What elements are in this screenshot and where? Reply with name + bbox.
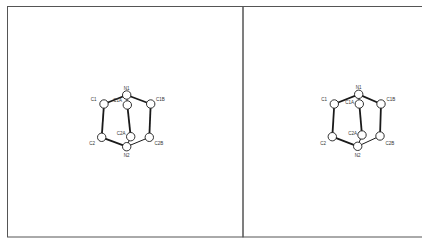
atom-label-c2b: C2B (386, 141, 395, 146)
atom-n1 (355, 90, 363, 98)
atom-label-n1: N1 (124, 86, 130, 91)
atom-label-n2: N2 (124, 153, 130, 158)
atom-c1 (330, 100, 338, 108)
atom-c1b (147, 100, 155, 108)
atom-label-c2a: C2A (117, 131, 126, 136)
panel-frame (8, 7, 422, 238)
bond-c1a-c2a (127, 105, 130, 137)
atom-c1b (377, 100, 385, 108)
atom-c2b (376, 132, 384, 140)
atom-c1a (355, 100, 363, 108)
atom-label-c1: C1 (321, 97, 327, 102)
atom-label-c1: C1 (91, 97, 97, 102)
atom-c2a (358, 131, 366, 139)
atom-label-n2: N2 (355, 153, 361, 158)
bond-c1-c2 (102, 104, 104, 137)
atom-c2a (127, 133, 135, 141)
bond-c1a-c2a (359, 104, 362, 135)
atom-label-c2: C2 (320, 141, 326, 146)
atom-n2 (123, 143, 131, 151)
atom-label-c1b: C1B (156, 97, 165, 102)
atom-label-c1a: C1A (345, 100, 354, 105)
atom-label-c1b: C1B (387, 97, 396, 102)
atom-c2 (98, 133, 106, 141)
stereo-figure: N1C1C1BC1AC2C2AC2BN2 N1C1C1BC1AC2C2AC2BN… (0, 0, 422, 246)
bond-c1-c2 (332, 104, 334, 137)
atom-c1a (123, 101, 131, 109)
atom-label-c2: C2 (89, 141, 95, 146)
left-molecule-view: N1C1C1BC1AC2C2AC2BN2 (89, 86, 165, 159)
atom-n1 (123, 91, 131, 99)
right-molecule-view: N1C1C1BC1AC2C2AC2BN2 (320, 85, 395, 158)
bond-c1b-c2b (149, 104, 150, 137)
atom-c1 (100, 100, 108, 108)
atom-c2 (328, 133, 336, 141)
atom-label-c1a: C1A (113, 98, 122, 103)
atom-label-n1: N1 (356, 85, 362, 90)
atom-c2b (145, 133, 153, 141)
atom-label-c2b: C2B (155, 141, 164, 146)
atom-n2 (354, 142, 362, 150)
left-panel-border (8, 7, 244, 238)
atom-label-c2a: C2A (348, 131, 357, 136)
bond-c1b-c2b (380, 104, 381, 136)
figure-canvas: N1C1C1BC1AC2C2AC2BN2 N1C1C1BC1AC2C2AC2BN… (0, 0, 422, 246)
